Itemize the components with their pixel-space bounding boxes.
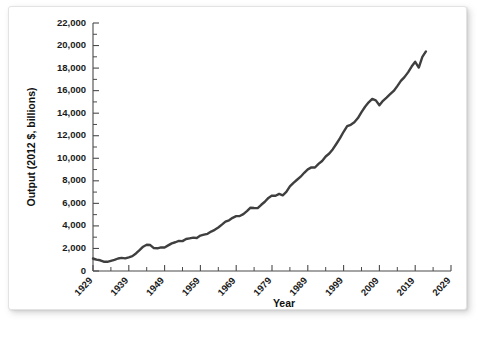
y-axis-ticks xyxy=(93,23,99,271)
x-axis-ticks xyxy=(93,265,451,271)
figure-card: 02,0004,0006,0008,00010,00012,00014,0001… xyxy=(8,6,467,310)
y-tick-label: 22,000 xyxy=(57,17,86,28)
y-tick-label: 10,000 xyxy=(57,152,86,163)
x-tick-label: 1989 xyxy=(287,275,309,298)
y-tick-label: 18,000 xyxy=(57,62,86,73)
x-tick-label: 2019 xyxy=(394,275,416,298)
x-axis-title: Year xyxy=(273,297,295,309)
y-tick-label: 20,000 xyxy=(57,39,86,50)
y-tick-label: 0 xyxy=(81,265,86,276)
x-tick-label: 2029 xyxy=(430,275,452,298)
x-tick-label: 1969 xyxy=(215,275,237,298)
y-tick-label: 14,000 xyxy=(57,107,86,118)
x-tick-label: 1999 xyxy=(323,275,345,298)
y-tick-label: 4,000 xyxy=(62,219,86,230)
x-axis-tick-labels: 1929193919491959196919791989199920092019… xyxy=(72,275,452,298)
x-tick-label: 1929 xyxy=(72,275,94,298)
y-tick-label: 16,000 xyxy=(57,84,86,95)
y-tick-label: 6,000 xyxy=(62,197,86,208)
y-tick-label: 2,000 xyxy=(62,242,86,253)
x-tick-label: 1939 xyxy=(108,275,130,298)
y-axis-title: Output (2012 $, billions) xyxy=(25,87,37,206)
y-axis-tick-labels: 02,0004,0006,0008,00010,00012,00014,0001… xyxy=(57,17,86,276)
x-tick-label: 1949 xyxy=(144,275,166,298)
x-tick-label: 2009 xyxy=(358,275,380,298)
y-tick-label: 8,000 xyxy=(62,174,86,185)
x-tick-label: 1979 xyxy=(251,275,273,298)
y-tick-label: 12,000 xyxy=(57,129,86,140)
line-chart: 02,0004,0006,0008,00010,00012,00014,0001… xyxy=(9,7,466,309)
x-tick-label: 1959 xyxy=(179,275,201,298)
data-series-line xyxy=(93,51,426,261)
screenshot-root: 02,0004,0006,0008,00010,00012,00014,0001… xyxy=(0,0,498,339)
